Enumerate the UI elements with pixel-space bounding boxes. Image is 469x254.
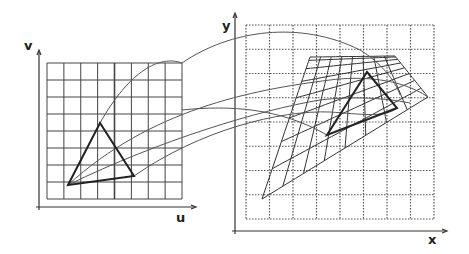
- mapping-curve: [68, 98, 410, 185]
- mesh-line: [310, 56, 395, 57]
- v-axis-label: v: [24, 38, 32, 53]
- mesh-line: [304, 57, 332, 174]
- u-axis-label: u: [176, 210, 185, 225]
- mesh-line: [324, 57, 342, 161]
- mapping-curve: [68, 78, 428, 185]
- y-axis-label: y: [222, 18, 230, 33]
- mapping-curves: [68, 32, 428, 185]
- target-grid: [246, 25, 434, 219]
- mesh-line: [363, 56, 366, 135]
- mesh-line: [281, 80, 414, 141]
- mapping-diagram: [0, 0, 469, 254]
- x-axis-label: x: [428, 232, 436, 247]
